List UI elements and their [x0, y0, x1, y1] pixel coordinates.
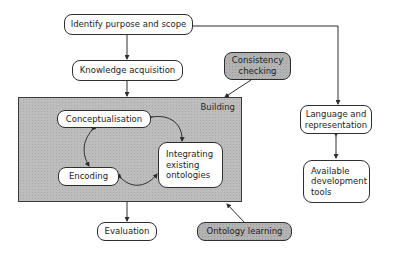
arrow-consistency-building — [225, 80, 251, 97]
node-label-line: tools — [311, 187, 332, 198]
node-label-line: representation — [305, 120, 367, 131]
ontology-development-diagram: Building — [0, 0, 395, 257]
node-label: Ontology learning — [207, 226, 283, 237]
node-integrating-existing-ontologies: Integrating existing ontologies — [158, 142, 223, 188]
arrow-encoding-integrating — [121, 174, 157, 185]
node-label: Evaluation — [105, 226, 150, 237]
node-label-line: Available — [311, 166, 349, 177]
node-knowledge-acquisition: Knowledge acquisition — [72, 60, 183, 81]
node-encoding: Encoding — [58, 167, 119, 186]
node-identify-purpose-scope: Identify purpose and scope — [64, 14, 193, 35]
node-label-line: checking — [238, 66, 276, 77]
node-label-line: Consistency — [232, 55, 283, 66]
arrow-concept-encoding — [84, 130, 92, 166]
arrow-integrating-concept — [152, 116, 182, 141]
node-label: Encoding — [69, 171, 108, 182]
node-consistency-checking: Consistency checking — [224, 52, 291, 80]
node-available-development-tools: Available development tools — [303, 160, 370, 203]
node-label-line: Integrating — [166, 149, 213, 160]
arrow-learning-building — [227, 204, 244, 222]
node-conceptualisation: Conceptualisation — [57, 110, 151, 128]
node-ontology-learning: Ontology learning — [197, 222, 292, 241]
node-label: Conceptualisation — [66, 114, 142, 125]
node-language-representation: Language and representation — [300, 105, 372, 134]
node-label-line: development — [311, 176, 367, 187]
node-label-line: Language and — [306, 109, 367, 120]
node-label: Identify purpose and scope — [71, 19, 187, 30]
node-evaluation: Evaluation — [97, 222, 157, 241]
node-label: Knowledge acquisition — [80, 65, 176, 76]
node-label-line: existing — [166, 160, 199, 171]
node-label-line: ontologies — [166, 170, 210, 181]
